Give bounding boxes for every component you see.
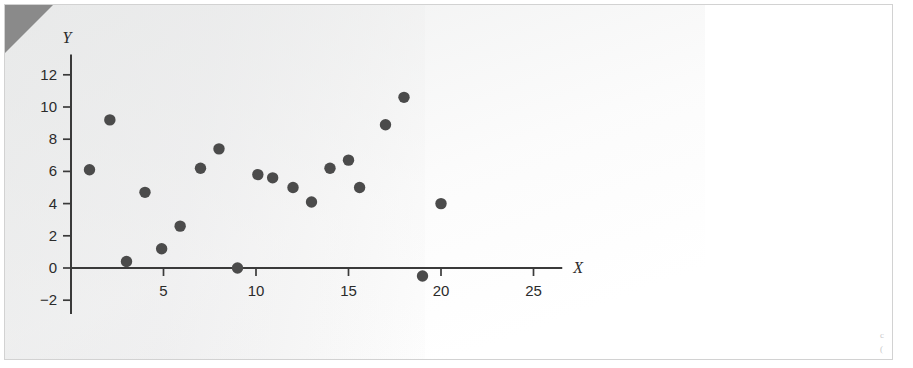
x-axis-tick-label: 20: [433, 282, 450, 299]
axes-group: [71, 55, 561, 313]
y-axis-tick-label: 4: [49, 195, 57, 212]
y-axis-tick-label: 0: [49, 259, 57, 276]
data-points-group: [84, 92, 447, 282]
data-point: [121, 256, 132, 267]
data-point: [435, 198, 446, 209]
y-axis-tick-label: 8: [49, 130, 57, 147]
data-point: [417, 270, 428, 281]
figure-page: −2024681012510152025 YX c (: [0, 0, 913, 368]
y-axis-label: Y: [63, 29, 74, 46]
data-point: [287, 182, 298, 193]
data-point: [156, 243, 167, 254]
data-point: [195, 162, 206, 173]
data-point: [380, 119, 391, 130]
data-point: [398, 92, 409, 103]
data-point: [213, 143, 224, 154]
data-point: [174, 220, 185, 231]
data-point: [267, 172, 278, 183]
scatter-plot: −2024681012510152025 YX: [0, 0, 913, 368]
x-axis-tick-label: 25: [525, 282, 542, 299]
data-point: [252, 169, 263, 180]
x-axis-tick-label: 5: [159, 282, 167, 299]
data-point: [104, 114, 115, 125]
y-axis-tick-label: 12: [40, 66, 57, 83]
margin-note-a: c: [880, 330, 884, 340]
margin-note-b: (: [880, 344, 883, 354]
x-axis-tick-label: 10: [248, 282, 265, 299]
data-point: [84, 164, 95, 175]
x-axis-label: X: [572, 259, 584, 276]
y-axis-tick-label: 10: [40, 98, 57, 115]
y-axis-tick-label: 6: [49, 162, 57, 179]
data-point: [324, 162, 335, 173]
y-axis-tick-label: −2: [40, 291, 57, 308]
axis-name-labels: YX: [63, 29, 585, 276]
data-point: [354, 182, 365, 193]
y-axis-tick-label: 2: [49, 227, 57, 244]
data-point: [139, 187, 150, 198]
data-point: [306, 196, 317, 207]
data-point: [232, 262, 243, 273]
data-point: [343, 154, 354, 165]
x-axis-tick-label: 15: [340, 282, 357, 299]
